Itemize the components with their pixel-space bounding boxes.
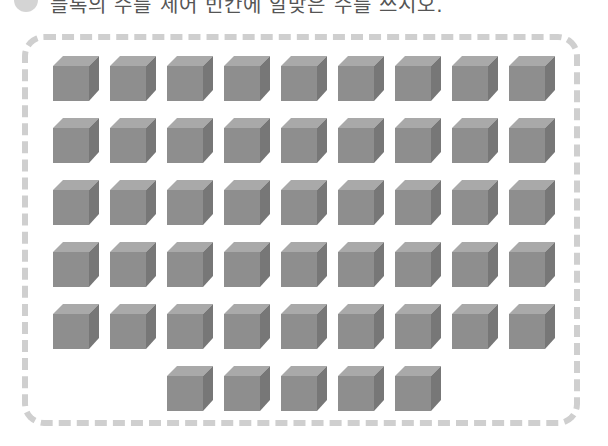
block-cube [281,118,327,164]
block-cube [110,304,156,350]
block-cube [53,242,99,288]
block-cube [281,366,327,412]
block-cube [338,366,384,412]
block-cube [53,56,99,102]
block-cube [509,118,555,164]
block-cube [395,118,441,164]
block-cube [509,304,555,350]
block-cube [452,180,498,226]
block-cube [167,242,213,288]
block-cube [224,366,270,412]
block-cube [53,180,99,226]
block-cube [110,56,156,102]
block-cube [338,242,384,288]
block-cube [452,118,498,164]
block-cube [395,366,441,412]
question-text: 블록의 수를 세어 빈칸에 알맞은 수를 쓰시오. [50,0,444,18]
question-number-badge [14,0,38,12]
block-cube [281,304,327,350]
block-cube [53,118,99,164]
block-cube [338,180,384,226]
block-cube [224,56,270,102]
block-cube [167,56,213,102]
block-cube [395,304,441,350]
block-cube [167,304,213,350]
block-cube [338,56,384,102]
block-cube [338,118,384,164]
block-cube [452,56,498,102]
block-cube [110,180,156,226]
block-cube [110,242,156,288]
block-cube [452,242,498,288]
block-cube [395,242,441,288]
block-cube [281,56,327,102]
block-cube [167,366,213,412]
block-cube [110,118,156,164]
block-cube [224,242,270,288]
block-cube [224,304,270,350]
block-cube [224,118,270,164]
block-cube [224,180,270,226]
block-cube [509,180,555,226]
block-cube [281,180,327,226]
block-cube [281,242,327,288]
block-cube [53,304,99,350]
block-cube [452,304,498,350]
block-cube [509,56,555,102]
block-cube [167,180,213,226]
block-cube [395,180,441,226]
block-cube [167,118,213,164]
block-cube [509,242,555,288]
block-cube [395,56,441,102]
block-cube [338,304,384,350]
